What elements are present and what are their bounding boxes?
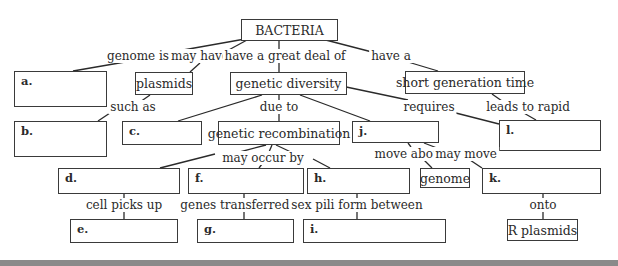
- node-plasmids: plasmids: [135, 72, 193, 95]
- blank-a[interactable]: a.: [14, 71, 107, 107]
- link-such-as: such as: [108, 100, 157, 114]
- link-due-to: due to: [258, 100, 300, 114]
- link-leads-to-rapid: leads to rapid: [484, 100, 572, 114]
- node-bacteria: BACTERIA: [241, 19, 338, 41]
- link-sex-pili: sex pili form between: [289, 198, 424, 212]
- blank-k[interactable]: k.: [482, 168, 601, 194]
- node-r-plasmids: R plasmids: [507, 219, 578, 241]
- link-requires: requires: [401, 100, 456, 114]
- blank-b[interactable]: b.: [14, 121, 107, 157]
- blank-f[interactable]: f.: [188, 168, 304, 194]
- link-cell-picks-up: cell picks up: [84, 198, 164, 212]
- blank-d[interactable]: d.: [58, 168, 180, 194]
- link-onto: onto: [528, 198, 559, 212]
- blank-j[interactable]: j.: [352, 121, 439, 143]
- link-may-move: may move: [433, 147, 499, 161]
- blank-i[interactable]: i.: [303, 219, 446, 243]
- blank-e[interactable]: e.: [70, 219, 178, 243]
- node-genetic-recombination: genetic recombination: [218, 121, 340, 145]
- node-short-generation-time: short generation time: [405, 71, 525, 94]
- link-genome-is: genome is: [105, 49, 171, 63]
- blank-l[interactable]: l.: [499, 120, 601, 151]
- bottom-divider-bar: [0, 260, 618, 266]
- blank-g[interactable]: g.: [197, 219, 294, 243]
- link-great-deal: have a great deal of: [222, 49, 347, 63]
- link-may-occur-by: may occur by: [220, 151, 306, 165]
- node-genetic-diversity: genetic diversity: [230, 72, 347, 95]
- node-genome: genome: [420, 168, 470, 188]
- blank-h[interactable]: h.: [307, 168, 410, 194]
- blank-c[interactable]: c.: [122, 121, 202, 145]
- link-have-a: have a: [369, 49, 413, 63]
